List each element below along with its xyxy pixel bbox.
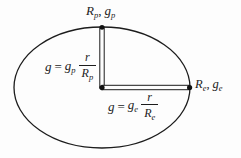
equatorial-formula-lhs: g	[108, 100, 115, 113]
polar-gravity-formula: g = gp r Rp	[45, 50, 96, 83]
equator-gravity-subscript: e	[219, 83, 223, 93]
center-point-marker	[99, 85, 104, 90]
equator-point-marker	[187, 85, 192, 90]
oblate-spheroid-gravity-diagram: Rp,gp Re,ge g = gp r Rp g = ge r Re	[0, 0, 241, 158]
polar-fraction-denominator: Rp	[79, 65, 97, 82]
equatorial-fraction-numerator: r	[144, 91, 155, 105]
equals-sign: =	[118, 100, 125, 113]
equatorial-gravity-formula: g = ge r Re	[108, 92, 158, 120]
equator-label: Re,ge	[195, 78, 223, 93]
pole-gravity-subscript: p	[111, 10, 115, 20]
equatorial-radius-shaft	[102, 85, 190, 89]
polar-fraction-numerator: r	[82, 51, 93, 65]
pole-radius-symbol: R	[86, 3, 94, 18]
pole-label-separator: ,	[98, 3, 101, 18]
equatorial-fraction-denominator: Re	[141, 104, 158, 121]
pole-label: Rp,gp	[86, 4, 115, 20]
polar-denominator-subscript: p	[89, 72, 93, 82]
equatorial-denominator-subscript: e	[151, 112, 155, 122]
pole-point-marker	[100, 25, 105, 30]
polar-formula-coefficient: gp	[65, 59, 76, 75]
equals-sign: =	[55, 60, 62, 73]
equatorial-formula-coefficient: ge	[128, 98, 138, 114]
equatorial-fraction: r Re	[141, 91, 158, 122]
equator-radius-symbol: R	[195, 77, 203, 91]
equator-label-separator: ,	[206, 77, 209, 91]
polar-radius-shaft	[100, 27, 104, 88]
polar-formula-lhs: g	[45, 60, 52, 73]
polar-denominator-base: R	[82, 66, 89, 80]
polar-coeff-subscript: p	[71, 65, 75, 75]
equatorial-coeff-subscript: e	[134, 104, 138, 114]
polar-fraction: r Rp	[79, 51, 97, 82]
